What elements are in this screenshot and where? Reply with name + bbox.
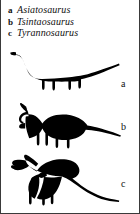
legend-item-b: bTsintaosaurus [8, 14, 134, 26]
theropod-silhouette-icon [9, 150, 124, 208]
legend: aAsiatosaurus bTsintaosaurus cTyrannosau… [8, 2, 134, 37]
panel-label-b: b [121, 121, 126, 132]
silhouette-panel-b: b [1, 98, 140, 152]
panel-label-c: c [121, 178, 125, 189]
figure-frame: aAsiatosaurus bTsintaosaurus cTyrannosau… [0, 0, 140, 214]
panel-label-a: a [121, 78, 125, 89]
hadrosaur-silhouette-icon [9, 98, 124, 152]
legend-key-c: c [8, 28, 17, 40]
legend-name-c: Tyrannosaurus [17, 27, 78, 38]
silhouette-panel-c: c [1, 150, 140, 208]
sauropod-silhouette-icon [9, 42, 124, 98]
legend-item-a: aAsiatosaurus [8, 2, 134, 14]
silhouette-panel-a: a [1, 42, 140, 98]
legend-item-c: cTyrannosaurus [8, 25, 134, 37]
